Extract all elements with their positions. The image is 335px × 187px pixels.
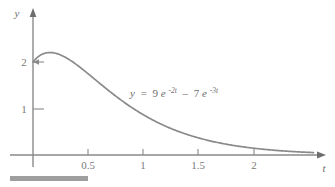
equation-base2: e [202,87,207,99]
equation-base1: e [161,87,166,99]
x-tick-1-5: 1.5 [191,149,205,171]
x-axis-arrowhead [317,152,326,159]
y-tick-label-2: 2 [21,56,27,68]
equation-annotation: y = 9 e -2t – 7 e -3t [129,83,219,99]
function-plot: y t 2 1 0.5 1 1.5 2 y = 9 e -2t – [0,0,335,187]
x-tick-label-1: 1 [140,159,146,171]
x-tick-0-5: 0.5 [81,149,95,171]
x-tick-1: 1 [140,149,146,171]
y-tick-label-1: 1 [21,103,27,115]
x-tick-2: 2 [251,149,257,171]
page-rule-bar [10,176,88,181]
equation-minus: – [182,87,189,99]
x-axis-label: t [322,162,326,174]
y-axis-label: y [14,7,20,19]
equation-exp1: -2t [169,86,178,95]
equation-equals: = [141,87,147,99]
equation-coef2: 7 [194,87,200,99]
equation-lhs: y [129,87,135,99]
x-tick-label-2: 2 [251,159,257,171]
y-axis-arrowhead [30,8,37,17]
x-tick-label-0-5: 0.5 [81,159,95,171]
equation-coef1: 9 [153,87,159,99]
equation-exp2: -3t [210,86,219,95]
x-tick-label-1-5: 1.5 [191,159,205,171]
curve-path [33,53,314,153]
